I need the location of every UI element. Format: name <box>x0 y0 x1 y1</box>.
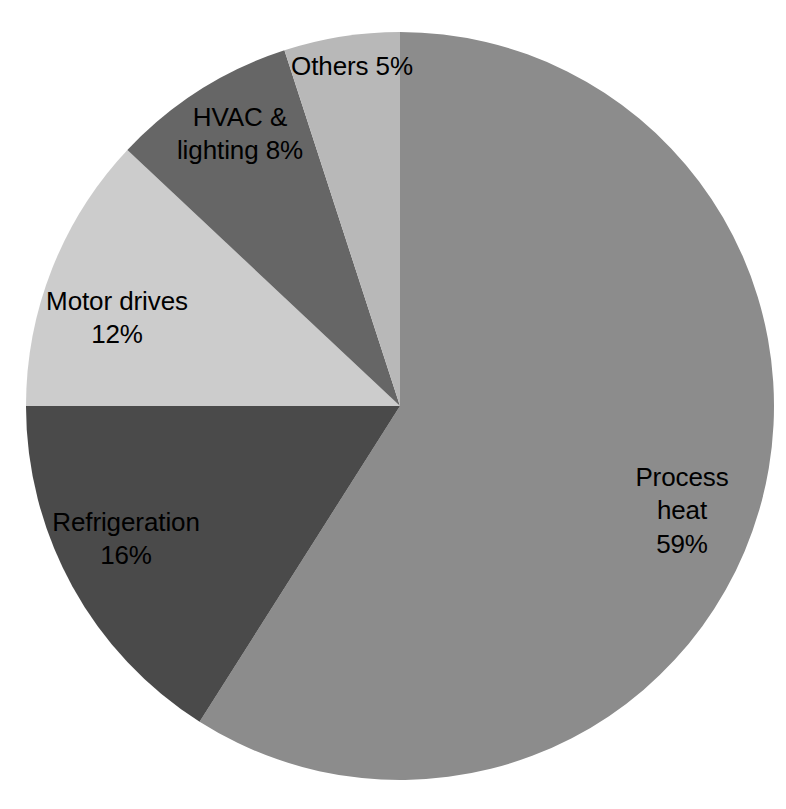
pie-chart: Process heat 59%Refrigeration 16%Motor d… <box>0 0 786 809</box>
pie-svg <box>0 0 786 809</box>
